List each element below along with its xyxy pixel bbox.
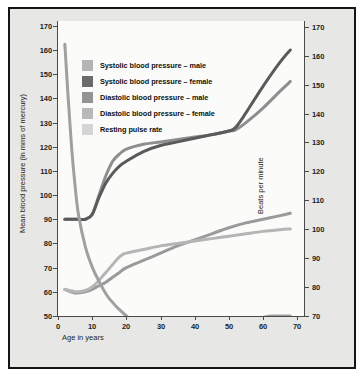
chart-frame: 5060708090100110120130140150160170708090…: [8, 7, 356, 369]
y-right-tick-label-150: 150: [312, 81, 340, 90]
y-left-tick-label-120: 120: [24, 143, 52, 152]
y-left-tick-50: [53, 316, 57, 317]
legend-item-4[interactable]: Resting pulse rate: [82, 121, 262, 137]
legend-label-0: Systolic blood pressure – male: [100, 61, 206, 70]
x-tick-0: [58, 316, 59, 320]
y-right-tick-120: [305, 171, 309, 172]
y-left-tick-label-130: 130: [24, 119, 52, 128]
y-left-tick-label-100: 100: [24, 191, 52, 200]
legend-item-2[interactable]: Diastolic blood pressure – male: [82, 89, 262, 105]
y-left-tick-label-60: 60: [24, 288, 52, 297]
x-axis-line: [57, 316, 305, 317]
x-tick-label-60: 60: [251, 322, 275, 331]
x-tick-label-10: 10: [80, 322, 104, 331]
y-right-tick-160: [305, 56, 309, 57]
y-left-tick-label-90: 90: [24, 215, 52, 224]
x-tick-label-50: 50: [217, 322, 241, 331]
y-axis-right-line: [304, 21, 305, 317]
y-left-tick-label-80: 80: [24, 239, 52, 248]
legend-item-1[interactable]: Systolic blood pressure – female: [82, 73, 262, 89]
legend-swatch-0: [82, 60, 93, 71]
y-right-tick-label-110: 110: [312, 196, 340, 205]
y-right-tick-100: [305, 229, 309, 230]
x-tick-label-0: 0: [46, 322, 70, 331]
y-right-tick-label-100: 100: [312, 225, 340, 234]
y-left-tick-label-70: 70: [24, 264, 52, 273]
legend-swatch-4: [82, 124, 93, 135]
x-tick-label-40: 40: [183, 322, 207, 331]
y-left-tick-80: [53, 243, 57, 244]
y-left-tick-160: [53, 50, 57, 51]
legend-swatch-2: [82, 92, 93, 103]
y-left-tick-label-50: 50: [24, 312, 52, 321]
legend-swatch-3: [82, 108, 93, 119]
chart-legend: Systolic blood pressure – maleSystolic b…: [82, 57, 262, 137]
y-right-tick-150: [305, 85, 309, 86]
y-right-tick-label-140: 140: [312, 110, 340, 119]
x-tick-20: [126, 316, 127, 320]
y-left-tick-label-140: 140: [24, 94, 52, 103]
legend-label-2: Diastolic blood pressure – male: [100, 93, 208, 102]
legend-item-0[interactable]: Systolic blood pressure – male: [82, 57, 262, 73]
legend-item-3[interactable]: Diastolic blood pressure – female: [82, 105, 262, 121]
y-axis-left-line: [57, 21, 58, 317]
y-right-tick-170: [305, 27, 309, 28]
legend-label-3: Diastolic blood pressure – female: [100, 109, 215, 118]
chart-figure: 5060708090100110120130140150160170708090…: [0, 0, 364, 377]
y-right-tick-90: [305, 258, 309, 259]
x-tick-label-20: 20: [114, 322, 138, 331]
y-left-tick-170: [53, 26, 57, 27]
y-right-tick-70: [305, 316, 309, 317]
legend-label-1: Systolic blood pressure – female: [100, 77, 212, 86]
y-right-tick-label-120: 120: [312, 167, 340, 176]
y-right-tick-140: [305, 114, 309, 115]
legend-swatch-1: [82, 76, 93, 87]
y-left-tick-label-170: 170: [24, 22, 52, 31]
y-left-tick-90: [53, 219, 57, 220]
x-tick-30: [161, 316, 162, 320]
x-tick-50: [229, 316, 230, 320]
y-right-tick-110: [305, 200, 309, 201]
x-tick-60: [263, 316, 264, 320]
x-axis-title: Age in years: [62, 333, 104, 342]
y-left-tick-label-110: 110: [24, 167, 52, 176]
y-left-tick-150: [53, 74, 57, 75]
legend-label-4: Resting pulse rate: [100, 125, 162, 134]
x-tick-label-30: 30: [149, 322, 173, 331]
y-right-tick-label-130: 130: [312, 138, 340, 147]
y-left-tick-140: [53, 98, 57, 99]
x-tick-40: [195, 316, 196, 320]
y-right-tick-label-70: 70: [312, 312, 340, 321]
x-tick-label-70: 70: [285, 322, 309, 331]
y-left-tick-110: [53, 171, 57, 172]
y-right-tick-130: [305, 142, 309, 143]
y-right-tick-label-80: 80: [312, 283, 340, 292]
y-right-tick-80: [305, 287, 309, 288]
y-left-tick-label-150: 150: [24, 70, 52, 79]
x-tick-70: [297, 316, 298, 320]
y-right-tick-label-160: 160: [312, 52, 340, 61]
y-left-tick-130: [53, 123, 57, 124]
y-right-tick-label-90: 90: [312, 254, 340, 263]
y-left-tick-100: [53, 195, 57, 196]
y-right-tick-label-170: 170: [312, 23, 340, 32]
x-tick-10: [92, 316, 93, 320]
y-axis-left-title: Mean blood pressure (in mms of mercury): [18, 69, 27, 259]
y-left-tick-60: [53, 292, 57, 293]
y-left-tick-70: [53, 268, 57, 269]
y-left-tick-120: [53, 147, 57, 148]
y-left-tick-label-160: 160: [24, 46, 52, 55]
